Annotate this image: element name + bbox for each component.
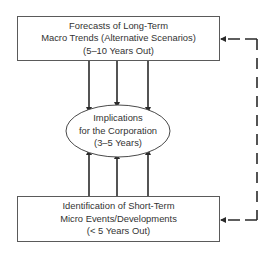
bottom-box-line-1: Identification of Short-Term (62, 200, 174, 213)
bottom-box-line-2: Micro Events/Developments (60, 213, 177, 226)
top-box-line-2: Macro Trends (Alternative Scenarios) (41, 32, 196, 45)
top-box-line-3: (5–10 Years Out) (83, 45, 154, 58)
top-box-line-1: Forecasts of Long-Term (69, 20, 168, 33)
corporate-implications-label: Implications for the Corporation (3–5 Ye… (66, 107, 170, 155)
center-line-2: for the Corporation (79, 125, 157, 138)
bottom-box-line-3: (< 5 Years Out) (87, 225, 150, 238)
center-line-3: (3–5 Years) (94, 137, 142, 150)
long-term-forecasts-box: Forecasts of Long-Term Macro Trends (Alt… (17, 16, 220, 61)
center-line-1: Implications (93, 112, 143, 125)
short-term-events-box: Identification of Short-Term Micro Event… (17, 196, 220, 242)
